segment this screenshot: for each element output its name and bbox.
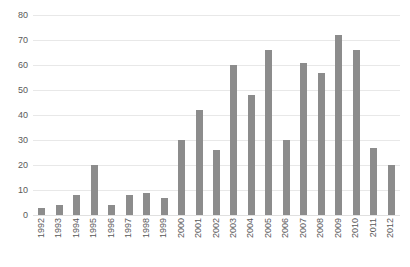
y-tick-label: 50 bbox=[0, 86, 28, 95]
bar bbox=[230, 65, 237, 215]
y-tick-label: 40 bbox=[0, 111, 28, 120]
x-tick-label: 1997 bbox=[124, 218, 133, 238]
x-tick-label: 2005 bbox=[264, 218, 273, 238]
x-tick-label: 2006 bbox=[281, 218, 290, 238]
bar bbox=[108, 205, 115, 215]
x-tick-label: 1999 bbox=[159, 218, 168, 238]
x-tick-label: 1998 bbox=[142, 218, 151, 238]
y-tick-label: 10 bbox=[0, 186, 28, 195]
bar bbox=[248, 95, 255, 215]
bar bbox=[91, 165, 98, 215]
bar bbox=[196, 110, 203, 215]
bar bbox=[143, 193, 150, 216]
x-tick-label: 1992 bbox=[37, 218, 46, 238]
gridline-0 bbox=[33, 215, 400, 216]
y-tick-label: 80 bbox=[0, 11, 28, 20]
y-tick-label: 0 bbox=[0, 211, 28, 220]
bar bbox=[126, 195, 133, 215]
bar bbox=[370, 148, 377, 216]
x-tick-label: 2012 bbox=[386, 218, 395, 238]
x-tick-label: 1994 bbox=[72, 218, 81, 238]
bar bbox=[283, 140, 290, 215]
x-tick-label: 2004 bbox=[246, 218, 255, 238]
x-tick-label: 2008 bbox=[316, 218, 325, 238]
bar bbox=[265, 50, 272, 215]
x-axis-labels: 1992199319941995199619971998199920002001… bbox=[33, 218, 400, 264]
y-tick-label: 70 bbox=[0, 36, 28, 45]
x-tick-label: 1995 bbox=[89, 218, 98, 238]
x-tick-label: 2002 bbox=[212, 218, 221, 238]
bar-series bbox=[33, 15, 400, 215]
bar bbox=[388, 165, 395, 215]
bar bbox=[335, 35, 342, 215]
x-tick-label: 1993 bbox=[54, 218, 63, 238]
bar bbox=[73, 195, 80, 215]
y-tick-label: 20 bbox=[0, 161, 28, 170]
x-tick-label: 2007 bbox=[299, 218, 308, 238]
bar bbox=[56, 205, 63, 215]
bar bbox=[178, 140, 185, 215]
x-tick-label: 2000 bbox=[177, 218, 186, 238]
bar bbox=[213, 150, 220, 215]
x-tick-label: 1996 bbox=[107, 218, 116, 238]
y-tick-label: 30 bbox=[0, 136, 28, 145]
bar bbox=[353, 50, 360, 215]
x-tick-label: 2001 bbox=[194, 218, 203, 238]
x-tick-label: 2003 bbox=[229, 218, 238, 238]
x-tick-label: 2009 bbox=[334, 218, 343, 238]
bar bbox=[300, 63, 307, 216]
bar bbox=[161, 198, 168, 216]
y-tick-label: 60 bbox=[0, 61, 28, 70]
bar-chart: 80 70 60 50 40 30 20 10 0 19921993199419… bbox=[0, 0, 410, 267]
bar bbox=[318, 73, 325, 216]
bar bbox=[38, 208, 45, 216]
x-tick-label: 2011 bbox=[369, 218, 378, 237]
y-axis-labels: 80 70 60 50 40 30 20 10 0 bbox=[0, 15, 28, 215]
x-tick-label: 2010 bbox=[351, 218, 360, 238]
